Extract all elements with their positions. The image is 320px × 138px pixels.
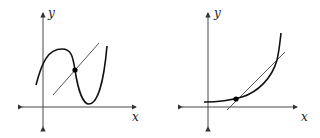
right-y-label: y [213, 6, 221, 20]
right-graph: y x [182, 6, 308, 127]
right-intersection-point [233, 96, 238, 101]
left-y-label: y [47, 6, 55, 20]
left-cubic-curve [36, 46, 107, 104]
left-x-label: x [132, 110, 139, 124]
right-x-label: x [301, 110, 308, 124]
left-graph: y x [22, 6, 139, 127]
left-intersection-point [72, 67, 77, 72]
figure-canvas: y x y x [0, 0, 320, 138]
